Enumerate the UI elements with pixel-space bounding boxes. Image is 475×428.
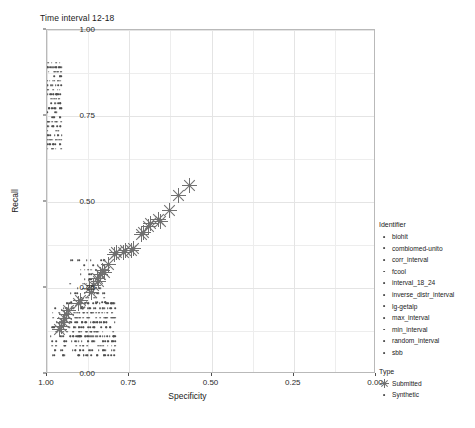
data-point-synthetic [102, 264, 104, 266]
legend-item-corr-interval[interactable]: corr_interval [379, 254, 475, 266]
legend-type-item-submitted[interactable]: Submitted [379, 378, 475, 390]
legend-item-interval-18-24[interactable]: interval_18_24 [379, 277, 475, 289]
data-point-synthetic [78, 340, 80, 342]
data-point-synthetic [53, 75, 55, 77]
data-point-synthetic [103, 292, 105, 294]
data-point-synthetic [109, 336, 111, 338]
data-point-synthetic [66, 303, 68, 305]
legend-item-label: min_interval [392, 324, 428, 336]
data-point-synthetic [56, 321, 58, 323]
legend-item-label: lg-getalp [392, 301, 417, 313]
data-point-synthetic [66, 331, 68, 333]
data-point-synthetic [100, 288, 102, 290]
data-point-synthetic [49, 121, 51, 123]
data-point-submitted [109, 245, 124, 260]
data-point-synthetic [95, 312, 97, 314]
legend-item-random-interval[interactable]: random_interval [379, 335, 475, 347]
data-point-synthetic [52, 85, 54, 87]
data-point-synthetic [64, 321, 66, 323]
data-point-synthetic [101, 345, 103, 347]
data-point-synthetic [80, 326, 82, 328]
legend-dot-icon [379, 277, 392, 289]
data-point-synthetic [80, 336, 82, 338]
data-point-synthetic [94, 292, 96, 294]
data-point-synthetic [70, 260, 72, 262]
data-point-submitted [134, 227, 149, 242]
data-point-synthetic [57, 121, 59, 123]
legend-item-max-interval[interactable]: max_interval [379, 312, 475, 324]
data-point-synthetic [103, 321, 105, 323]
legend-item-min-interval[interactable]: min_interval [379, 324, 475, 336]
data-point-synthetic [87, 307, 89, 309]
data-point-synthetic [92, 340, 94, 342]
data-point-synthetic [46, 80, 48, 82]
data-point-synthetic [111, 317, 113, 319]
legend-item-biohit[interactable]: biohit [379, 231, 475, 243]
data-point-synthetic [78, 331, 80, 333]
data-point-synthetic [46, 112, 48, 114]
data-point-synthetic [93, 264, 95, 266]
data-point-synthetic [48, 62, 50, 64]
data-point-synthetic [52, 89, 54, 91]
data-point-synthetic [110, 326, 112, 328]
data-point-synthetic [85, 321, 87, 323]
data-point-synthetic [64, 345, 66, 347]
data-point-synthetic [55, 340, 57, 342]
data-point-synthetic [84, 306, 86, 308]
data-point-synthetic [74, 350, 76, 352]
data-point-synthetic [86, 331, 88, 333]
data-point-synthetic [60, 103, 62, 105]
data-point-synthetic [46, 134, 48, 136]
data-point-synthetic [112, 303, 114, 305]
data-point-synthetic [58, 130, 60, 132]
legend-item-combiomed-unito[interactable]: combiomed-unito [379, 243, 475, 255]
data-point-synthetic [54, 143, 56, 145]
data-point-synthetic [95, 297, 97, 299]
data-point-synthetic [46, 125, 48, 127]
data-point-synthetic [51, 345, 53, 347]
y-axis-title: Recall [10, 189, 20, 213]
data-point-synthetic [59, 125, 61, 127]
data-point-synthetic [50, 94, 52, 96]
data-point-synthetic [75, 345, 77, 347]
data-point-synthetic [54, 71, 56, 73]
data-point-synthetic [94, 326, 96, 328]
data-point-synthetic [114, 336, 116, 338]
data-point-synthetic [59, 89, 61, 91]
data-point-synthetic [103, 264, 105, 266]
data-point-synthetic [90, 321, 92, 323]
data-point-synthetic [113, 354, 115, 356]
legend-item-inverse-distr-interval[interactable]: inverse_distr_interval [379, 289, 475, 301]
data-point-synthetic [97, 264, 99, 266]
data-point-synthetic [60, 121, 62, 123]
data-point-synthetic [102, 312, 104, 314]
data-point-synthetic [48, 107, 50, 109]
data-point-synthetic [69, 321, 71, 323]
data-point-synthetic [90, 260, 92, 262]
data-point-synthetic [73, 326, 75, 328]
data-point-synthetic [96, 336, 98, 338]
data-point-synthetic [107, 345, 109, 347]
data-point-synthetic [82, 317, 84, 319]
data-point-synthetic [104, 336, 106, 338]
data-point-synthetic [96, 331, 98, 333]
data-point-synthetic [88, 274, 90, 276]
data-point-synthetic [106, 321, 108, 323]
legend-item-sbb[interactable]: sbb [379, 347, 475, 359]
data-point-synthetic [57, 80, 59, 82]
data-point-synthetic [60, 116, 62, 118]
data-point-synthetic [74, 312, 76, 314]
legend-item-label: combiomed-unito [392, 243, 443, 255]
legend-type-item-synthetic[interactable]: Synthetic [379, 389, 475, 401]
y-tick-mark [43, 201, 46, 202]
legend-item-lg-getalp[interactable]: lg-getalp [379, 301, 475, 313]
y-tick-mark [43, 115, 46, 116]
data-point-synthetic [55, 345, 57, 347]
data-point-synthetic [114, 340, 116, 342]
data-point-synthetic [62, 350, 64, 352]
legend-dot-icon [379, 347, 392, 359]
data-point-synthetic [63, 354, 65, 356]
legend-item-fcool[interactable]: fcool [379, 266, 475, 278]
legend-type-label: Synthetic [392, 389, 419, 401]
data-point-submitted [136, 225, 151, 240]
